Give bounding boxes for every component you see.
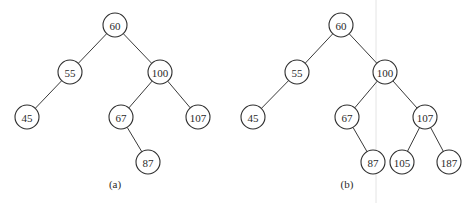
tree-node-a-45: 45 — [15, 105, 39, 129]
tree-node-a-87: 87 — [136, 150, 160, 174]
tree-diagram-canvas: 60551004567107876055100456710787105187 (… — [0, 0, 475, 203]
tree-node-a-60: 60 — [103, 13, 127, 37]
node-label: 60 — [336, 20, 348, 32]
tree-node-a-107: 107 — [186, 105, 210, 129]
tree-edge-60-55 — [78, 34, 106, 64]
tree-edge-67-87 — [353, 127, 367, 151]
edges-layer — [35, 34, 443, 152]
tree-node-a-55: 55 — [58, 60, 82, 84]
tree-edge-55-45 — [35, 81, 61, 109]
tree-node-b-105: 105 — [390, 150, 414, 174]
tree-node-b-107: 107 — [413, 105, 437, 129]
tree-edge-67-87 — [127, 127, 142, 151]
node-label: 67 — [342, 112, 354, 124]
node-label: 100 — [377, 67, 394, 79]
tree-edge-60-100 — [349, 34, 377, 63]
bst-figure: 60551004567107876055100456710787105187 (… — [0, 0, 475, 203]
node-label: 55 — [292, 67, 304, 79]
nodes-layer: 60551004567107876055100456710787105187 — [15, 13, 461, 174]
node-label: 187 — [441, 157, 458, 169]
tree-node-b-187: 187 — [437, 150, 461, 174]
node-label: 100 — [152, 67, 169, 79]
tree-node-b-45: 45 — [241, 105, 265, 129]
tree-node-b-67: 67 — [335, 105, 359, 129]
node-label: 87 — [143, 157, 155, 169]
tree-caption-b: (b) — [341, 178, 354, 191]
node-label: 45 — [22, 112, 34, 124]
node-label: 107 — [417, 112, 434, 124]
captions-layer: (a)(b) — [109, 178, 354, 191]
node-label: 107 — [190, 112, 207, 124]
node-label: 55 — [65, 67, 77, 79]
node-label: 87 — [368, 157, 380, 169]
tree-node-a-67: 67 — [109, 105, 133, 129]
tree-node-a-100: 100 — [148, 60, 172, 84]
tree-edge-100-107 — [393, 81, 417, 108]
node-label: 45 — [248, 112, 260, 124]
node-label: 67 — [116, 112, 128, 124]
tree-edge-100-107 — [168, 81, 191, 108]
node-label: 105 — [394, 157, 411, 169]
tree-node-b-87: 87 — [361, 150, 385, 174]
tree-edge-55-45 — [261, 81, 288, 109]
tree-edge-60-55 — [305, 34, 333, 63]
tree-caption-a: (a) — [109, 178, 122, 191]
tree-edge-100-67 — [129, 81, 152, 108]
tree-edge-107-105 — [407, 128, 419, 152]
node-label: 60 — [110, 20, 122, 32]
tree-edge-60-100 — [123, 34, 151, 64]
tree-node-b-55: 55 — [285, 60, 309, 84]
tree-node-b-60: 60 — [329, 13, 353, 37]
tree-edge-100-67 — [355, 81, 378, 108]
tree-edge-107-187 — [431, 128, 444, 152]
tree-node-b-100: 100 — [373, 60, 397, 84]
